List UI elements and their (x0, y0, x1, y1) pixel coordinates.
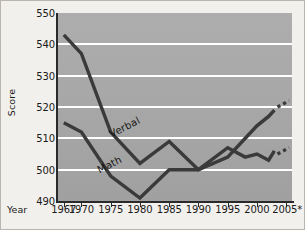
chart-figure: Score 550 540 530 520 510 500 490 (0, 0, 305, 230)
y-axis-tick-labels: 550 540 530 520 510 500 490 (19, 1, 55, 230)
x-tick-1995: 1995 (215, 204, 240, 215)
x-tick-2005: 2005* (272, 204, 302, 215)
y-axis-title: Score (6, 75, 17, 131)
x-axis-line (56, 201, 294, 203)
verbal-line (64, 35, 275, 170)
y-tick-550: 550 (21, 8, 55, 19)
y-tick-500: 500 (21, 164, 55, 175)
x-tick-2000: 2000 (244, 204, 269, 215)
math-line (64, 123, 275, 198)
x-tick-1990: 1990 (186, 204, 211, 215)
x-tick-1975: 1975 (98, 204, 123, 215)
math-line-projected (278, 148, 290, 154)
y-tick-510: 510 (21, 133, 55, 144)
x-axis-tick-labels: Year 1967 1970 1975 1980 1985 1990 1995 … (1, 204, 305, 224)
y-tick-520: 520 (21, 102, 55, 113)
series-lines (58, 13, 292, 201)
x-axis-title: Year (7, 204, 27, 215)
x-tick-1985: 1985 (157, 204, 182, 215)
y-tick-540: 540 (21, 39, 55, 50)
x-tick-1970: 1970 (69, 204, 94, 215)
x-tick-1980: 1980 (127, 204, 152, 215)
y-tick-530: 530 (21, 70, 55, 81)
plot-area: Verbal Math (58, 13, 292, 201)
verbal-line-projected (278, 101, 290, 107)
